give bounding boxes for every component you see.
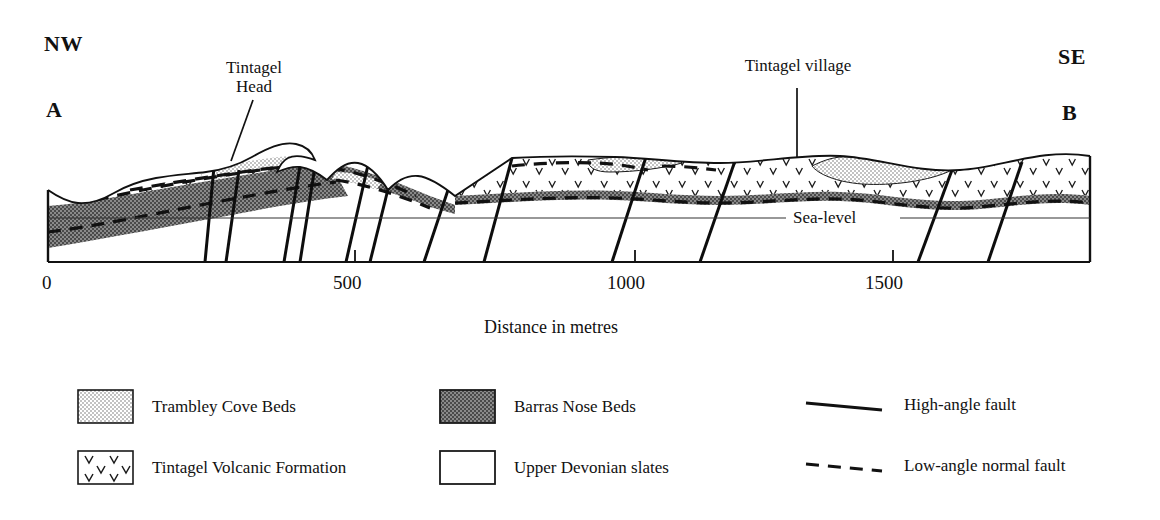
annotation-tintagel-village: Tintagel village [726, 56, 870, 75]
legend-label-high-angle-fault: High-angle fault [904, 395, 1016, 415]
cross-section-body [40, 88, 1100, 270]
legend-label-tintagel-volcanic-formation: Tintagel Volcanic Formation [152, 458, 346, 478]
annotation-tintagel-head: Tintagel Head [208, 58, 300, 96]
legend-swatch-upper-devonian-slates [440, 451, 495, 484]
section-endpoint-b: B [1062, 100, 1077, 126]
legend-swatch-high-angle-fault [806, 403, 882, 410]
axis-tick-label-1500: 1500 [865, 272, 903, 294]
legend-swatch-trambley-cove-beds [78, 390, 133, 423]
axis-title-distance: Distance in metres [484, 317, 618, 338]
geological-cross-section-figure [0, 0, 1160, 520]
axis-tick-label-1000: 1000 [607, 272, 645, 294]
sea-level-label: Sea-level [788, 208, 861, 228]
legend-swatch-low-angle-normal-fault [806, 464, 882, 471]
legend-label-low-angle-normal-fault: Low-angle normal fault [904, 456, 1065, 476]
legend-swatch-tintagel-volcanic-formation [78, 451, 133, 484]
legend-label-upper-devonian-slates: Upper Devonian slates [514, 458, 669, 478]
legend-swatch-barras-nose-beds [440, 390, 495, 423]
upper-devonian-slates-unit [40, 130, 1100, 270]
section-endpoint-a: A [46, 97, 62, 123]
compass-label-nw: NW [44, 31, 83, 57]
annotation-tintagel-head-line2: Head [208, 77, 300, 96]
legend-label-barras-nose-beds: Barras Nose Beds [514, 397, 636, 417]
tintagel-head-leader-line [231, 100, 253, 161]
axis-tick-label-0: 0 [42, 272, 52, 294]
annotation-tintagel-head-line1: Tintagel [208, 58, 300, 77]
compass-label-se: SE [1058, 44, 1086, 70]
legend-label-trambley-cove-beds: Trambley Cove Beds [152, 397, 296, 417]
axis-tick-label-500: 500 [333, 272, 362, 294]
